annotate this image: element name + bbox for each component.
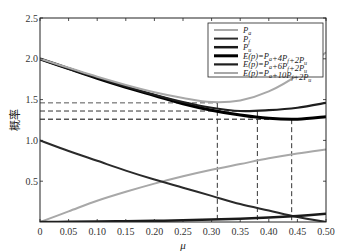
y-tick-label: 1.0	[26, 135, 39, 146]
y-tick-label: 1.5	[26, 94, 39, 105]
y-tick-label: 0.5	[26, 176, 39, 187]
y-tick-label: 2.0	[26, 53, 39, 64]
x-tick-label: 0.05	[60, 226, 78, 237]
series-line	[40, 140, 326, 222]
x-tick-label: 0.10	[88, 226, 106, 237]
x-tick-label: 0.20	[146, 226, 164, 237]
x-tick-label: 0.35	[231, 226, 249, 237]
series-line	[40, 149, 326, 222]
x-tick-label: 0.50	[317, 226, 335, 237]
x-tick-label: 0.25	[174, 226, 192, 237]
y-axis-label: 概率	[8, 109, 21, 131]
x-axis-label: μ	[179, 239, 186, 251]
x-tick-label: 0.30	[203, 226, 221, 237]
x-tick-label: 0	[38, 226, 43, 237]
x-tick-label: 0.15	[117, 226, 135, 237]
legend: PaPfPuE(p)=Pa+4Pf+2PuE(p)=Pa+6Pf+2PuE(p)…	[208, 23, 323, 83]
y-tick-label: 2.5	[26, 13, 39, 24]
x-tick-label: 0.45	[289, 226, 307, 237]
x-tick-label: 0.40	[260, 226, 278, 237]
line-chart: 00.050.100.150.200.250.300.350.400.450.5…	[0, 0, 346, 252]
reference-lines	[40, 103, 292, 222]
